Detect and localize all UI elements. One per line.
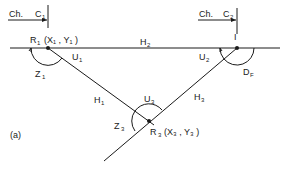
chainage-c2-sub: 2 xyxy=(230,14,234,20)
label-h3: H 3 xyxy=(194,92,205,103)
label-r1-coords: (X₁ , Y₁ ) xyxy=(44,35,78,45)
chainage-c2-prefix: Ch. xyxy=(199,9,213,19)
label-u3: U 3 xyxy=(144,94,155,105)
label-r1: R 1 (X₁ , Y₁ ) xyxy=(30,35,78,46)
chainage-c1-prefix: Ch. xyxy=(9,9,23,19)
svg-text:U: U xyxy=(144,94,151,104)
angle-arrow-u2 xyxy=(220,48,222,52)
angle-arc-z3 xyxy=(132,111,135,131)
svg-text:H: H xyxy=(94,95,101,105)
label-r3-coords: (X₃ , Y₃ ) xyxy=(164,127,199,137)
chainage-c2-letter: C xyxy=(223,9,230,19)
svg-text:1: 1 xyxy=(101,100,105,106)
traverse-diagram: Ch. C 1 Ch. C 2 R 1 (X₁ , Y₁ ) I R 3 (X₃… xyxy=(0,0,288,171)
angle-arc-u3 xyxy=(135,104,162,111)
svg-text:2: 2 xyxy=(206,57,210,63)
label-z3: Z 3 xyxy=(114,121,125,132)
svg-text:F: F xyxy=(250,72,254,78)
svg-text:H: H xyxy=(140,37,147,47)
chainage-c1-marker: Ch. C 1 xyxy=(8,5,48,28)
label-u1: U 1 xyxy=(72,52,83,63)
label-r3: R 3 (X₃ , Y₃ ) xyxy=(150,127,199,138)
svg-text:3: 3 xyxy=(121,126,125,132)
svg-text:1: 1 xyxy=(79,57,83,63)
svg-text:Z: Z xyxy=(114,121,120,131)
label-h2: H 2 xyxy=(140,37,151,48)
label-r1-name: R xyxy=(30,35,37,45)
label-u2: U 2 xyxy=(199,52,210,63)
label-df: D F xyxy=(243,67,254,78)
point-i xyxy=(235,46,239,50)
label-h1: H 1 xyxy=(94,95,105,106)
point-r3 xyxy=(147,119,151,123)
label-r1-sub: 1 xyxy=(37,40,41,46)
label-r3-name: R xyxy=(150,127,157,137)
chainage-c1-letter: C xyxy=(35,9,42,19)
svg-text:1: 1 xyxy=(42,74,46,80)
figure-label: (a) xyxy=(10,130,21,140)
svg-text:U: U xyxy=(72,52,79,62)
chainage-c2-marker: Ch. C 2 xyxy=(198,8,237,34)
svg-text:U: U xyxy=(199,52,206,62)
svg-text:2: 2 xyxy=(147,42,151,48)
angle-arc-z1 xyxy=(31,48,62,65)
svg-text:Z: Z xyxy=(35,69,41,79)
label-z1: Z 1 xyxy=(35,69,46,80)
chainage-c1-sub: 1 xyxy=(42,14,46,20)
label-i: I xyxy=(234,32,237,42)
angle-arrow-z1 xyxy=(29,48,31,52)
line-h1 xyxy=(48,48,154,125)
line-h3 xyxy=(104,48,237,161)
angle-arc-df xyxy=(224,48,254,65)
label-r3-sub: 3 xyxy=(158,132,162,138)
svg-text:D: D xyxy=(243,67,250,77)
svg-text:3: 3 xyxy=(151,99,155,105)
svg-text:3: 3 xyxy=(201,97,205,103)
point-r1 xyxy=(46,46,50,50)
svg-text:H: H xyxy=(194,92,201,102)
